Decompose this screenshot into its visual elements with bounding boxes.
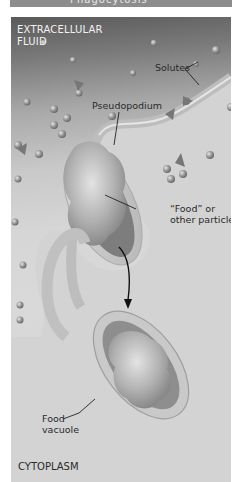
extracellular-label-line1: EXTRACELLULAR <box>17 24 103 36</box>
food-label-line2: other particle <box>170 214 231 225</box>
food-label-line1: “Food” or <box>170 203 231 214</box>
header-bar: Phagocytosis <box>10 0 232 7</box>
solutes-label: Solutes <box>155 62 190 73</box>
vacuole-label-line1: Food <box>42 413 79 424</box>
header-title: Phagocytosis <box>70 0 148 5</box>
vacuole-label-line2: vacuole <box>42 424 79 435</box>
food-vacuole-label: Food vacuole <box>42 413 79 435</box>
food-particle-label: “Food” or other particle <box>170 203 231 225</box>
extracellular-fluid-label: EXTRACELLULAR FLUID <box>17 24 103 48</box>
cytoplasm-label: CYTOPLASM <box>18 461 79 472</box>
extracellular-label-line2: FLUID <box>17 36 103 48</box>
phagocytosis-diagram: EXTRACELLULAR FLUID Solutes Pseudopodium… <box>11 17 231 482</box>
pseudopodium-label: Pseudopodium <box>92 100 162 111</box>
